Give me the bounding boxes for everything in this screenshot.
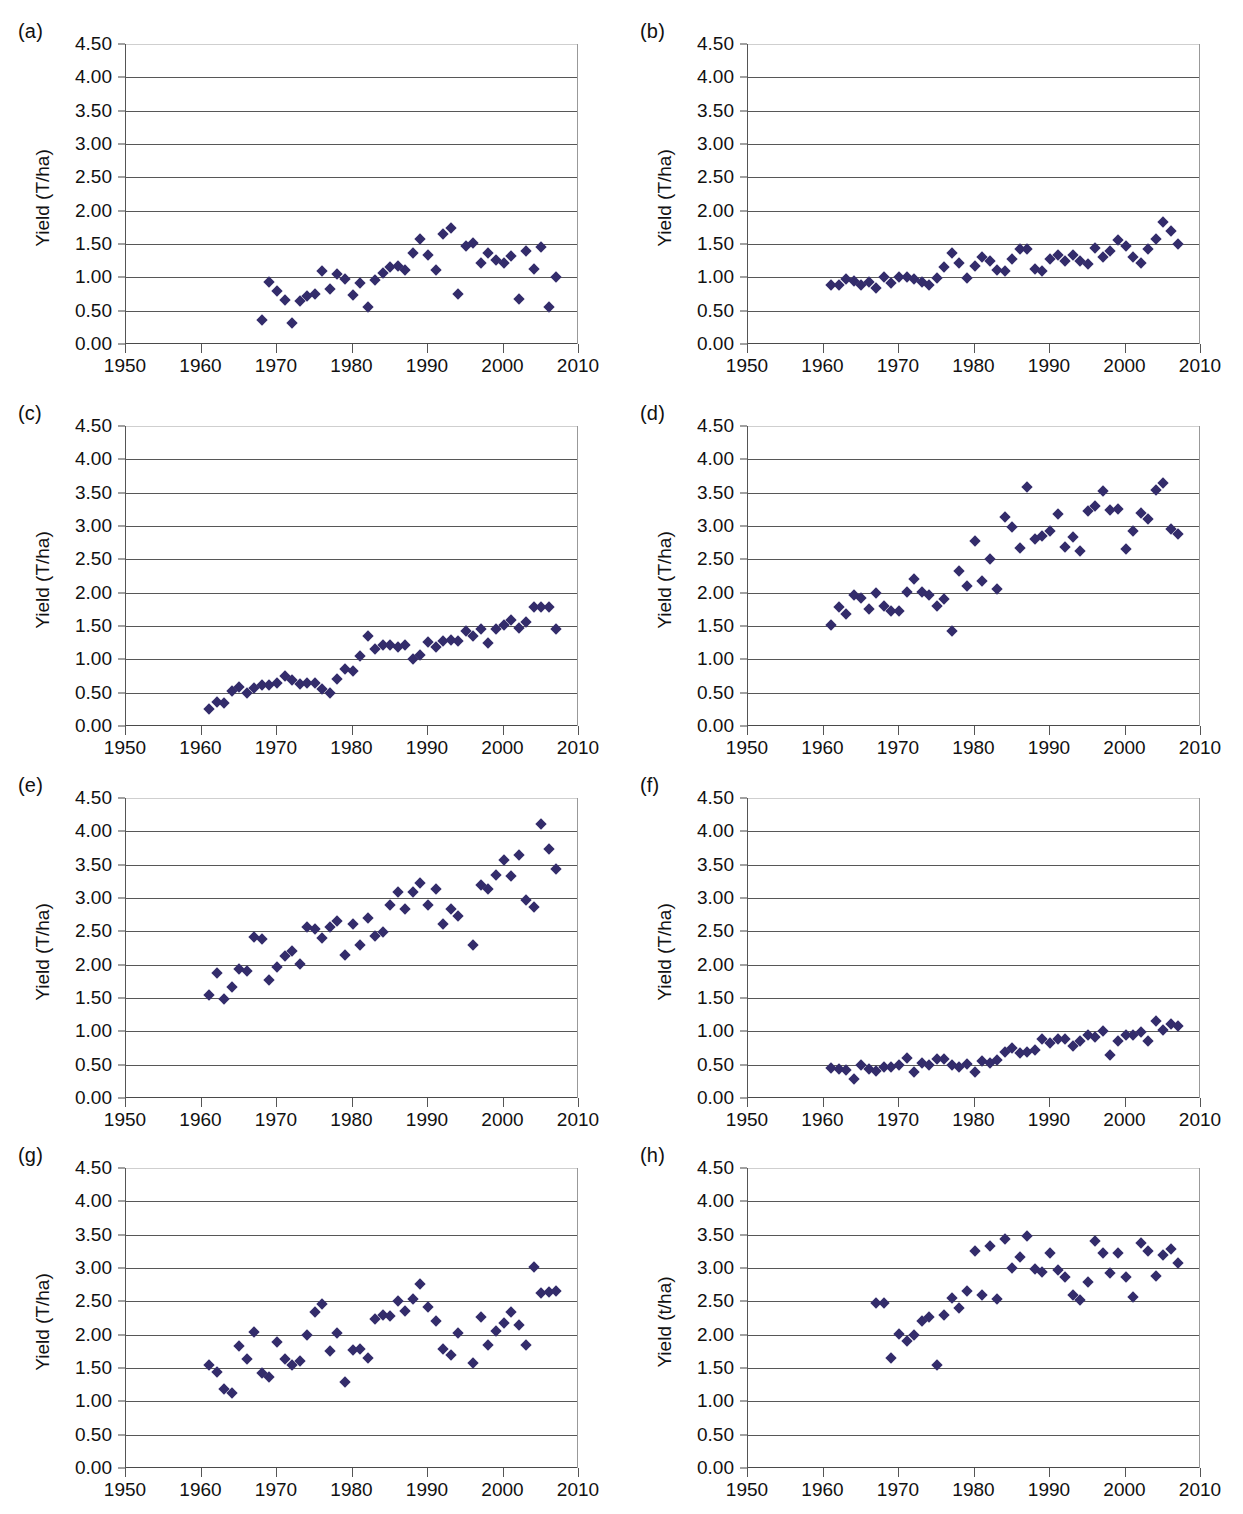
- data-point: [1173, 528, 1184, 539]
- y-tick-mark: [740, 144, 747, 145]
- data-point: [317, 932, 328, 943]
- data-point: [385, 900, 396, 911]
- data-point: [437, 918, 448, 929]
- x-tick-label: 2010: [557, 1479, 599, 1501]
- y-tick-mark: [118, 210, 125, 211]
- y-tick-label: 3.00: [697, 515, 734, 537]
- data-point: [422, 249, 433, 260]
- data-point: [309, 288, 320, 299]
- gridline: [748, 277, 1199, 278]
- data-point: [475, 258, 486, 269]
- plot-area-e: 0.000.501.001.502.002.503.003.504.004.50…: [62, 798, 582, 1098]
- plot-area-d: 0.000.501.001.502.002.503.003.504.004.50…: [684, 426, 1204, 726]
- x-tick-mark: [276, 726, 277, 735]
- x-tick-mark: [201, 726, 202, 735]
- y-ticks-e: 0.000.501.001.502.002.503.003.504.004.50: [62, 798, 118, 1098]
- y-tick-label: 2.00: [75, 954, 112, 976]
- data-point: [1044, 1248, 1055, 1259]
- y-tick-label: 2.00: [75, 1324, 112, 1346]
- y-tick-mark: [118, 1301, 125, 1302]
- x-tick-label: 1990: [406, 1479, 448, 1501]
- y-tick-mark: [740, 964, 747, 965]
- data-point: [483, 884, 494, 895]
- y-tick-mark: [118, 344, 125, 345]
- y-tick-mark: [740, 864, 747, 865]
- gridline: [748, 144, 1199, 145]
- data-point: [924, 590, 935, 601]
- y-tick-mark: [740, 1468, 747, 1469]
- gridline: [126, 493, 577, 494]
- y-tick-mark: [740, 459, 747, 460]
- x-tick-mark: [125, 726, 126, 735]
- y-tick-mark: [118, 1268, 125, 1269]
- data-point: [1173, 1257, 1184, 1268]
- x-tick-mark: [503, 1098, 504, 1107]
- data-point: [520, 245, 531, 256]
- y-tick-mark: [740, 1401, 747, 1402]
- plot-frame-h: [747, 1168, 1200, 1468]
- x-tick-mark: [578, 1098, 579, 1107]
- y-axis-label-b: Yield (T/ha): [658, 48, 680, 348]
- gridline: [126, 211, 577, 212]
- x-tick-label: 2000: [1103, 737, 1145, 759]
- data-point: [483, 637, 494, 648]
- data-point: [878, 1297, 889, 1308]
- x-tick-mark: [1125, 1098, 1126, 1107]
- y-tick-mark: [740, 659, 747, 660]
- plot-frame-e: [125, 798, 578, 1098]
- x-tick-label: 1980: [330, 355, 372, 377]
- y-tick-label: 3.50: [697, 1224, 734, 1246]
- data-point: [908, 574, 919, 585]
- data-point: [1059, 1272, 1070, 1283]
- data-point: [908, 1066, 919, 1077]
- x-tick-label: 1960: [179, 355, 221, 377]
- y-tick-label: 3.50: [697, 100, 734, 122]
- y-tick-label: 2.00: [697, 954, 734, 976]
- x-tick-mark: [974, 726, 975, 735]
- x-tick-label: 1970: [255, 1109, 297, 1131]
- data-point: [324, 1346, 335, 1357]
- x-tick-label: 1950: [104, 1479, 146, 1501]
- data-point: [264, 1372, 275, 1383]
- x-tick-mark: [352, 1098, 353, 1107]
- plot-frame-d: [747, 426, 1200, 726]
- y-tick-label: 4.50: [75, 415, 112, 437]
- x-tick-mark: [898, 1468, 899, 1477]
- x-tick-mark: [898, 726, 899, 735]
- x-tick-label: 2010: [1179, 737, 1221, 759]
- y-tick-mark: [118, 44, 125, 45]
- data-point: [969, 1245, 980, 1256]
- data-point: [415, 1278, 426, 1289]
- y-tick-label: 2.50: [75, 548, 112, 570]
- data-point: [324, 283, 335, 294]
- gridline: [126, 1065, 577, 1066]
- data-point: [976, 575, 987, 586]
- panel-f: (f) Yield (T/ha) 0.000.501.001.502.002.5…: [622, 772, 1222, 1137]
- x-tick-mark: [1049, 1098, 1050, 1107]
- data-point: [430, 264, 441, 275]
- gridline: [748, 1235, 1199, 1236]
- data-point: [1067, 532, 1078, 543]
- y-tick-mark: [118, 931, 125, 932]
- panel-label-h: (h): [640, 1144, 665, 1167]
- y-tick-mark: [740, 1334, 747, 1335]
- x-tick-mark: [1125, 726, 1126, 735]
- x-tick-mark: [427, 726, 428, 735]
- x-tick-mark: [201, 1098, 202, 1107]
- y-tick-mark: [740, 692, 747, 693]
- y-tick-label: 1.50: [75, 615, 112, 637]
- data-point: [1022, 482, 1033, 493]
- x-tick-label: 1980: [330, 737, 372, 759]
- x-tick-mark: [747, 1468, 748, 1477]
- y-tick-mark: [740, 626, 747, 627]
- y-tick-label: 2.00: [75, 200, 112, 222]
- y-tick-label: 2.50: [697, 920, 734, 942]
- data-point: [939, 593, 950, 604]
- x-tick-label: 1950: [726, 737, 768, 759]
- plot-frame-a: [125, 44, 578, 344]
- data-point: [332, 1327, 343, 1338]
- data-point: [543, 844, 554, 855]
- plot-frame-b: [747, 44, 1200, 344]
- y-tick-mark: [118, 77, 125, 78]
- x-tick-label: 1970: [877, 355, 919, 377]
